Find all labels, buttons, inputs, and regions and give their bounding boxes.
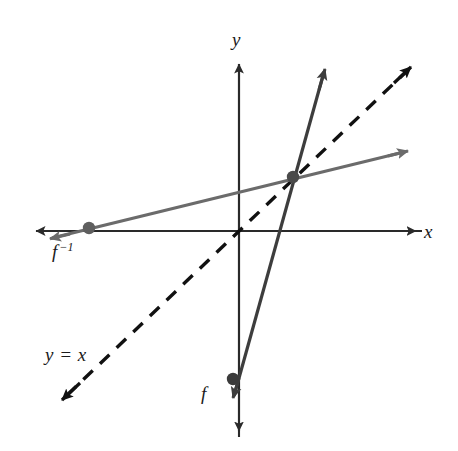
identity-line-arrow-lower-left [62,383,80,400]
f-inverse-label-exponent: −1 [59,240,73,254]
f-inverse-label: f−1 [52,241,73,261]
identity-line-label: y = x [45,345,87,364]
f-inverse-line-group [50,151,408,239]
y-axis-label: y [232,30,240,49]
f-line-group [233,69,325,398]
identity-line-group [62,67,411,400]
f-inverse-arrow-right [388,151,408,156]
identity-line-dashed [64,69,409,398]
identity-line-arrow-upper-right [394,67,411,83]
f-label: f [201,384,206,403]
point-f-y-intercept [227,373,239,385]
point-f-inverse-x-intercept [83,222,95,234]
f-arrow-up [319,69,325,90]
f-line [234,72,324,396]
f-inverse-line [52,152,404,238]
math-figure: y x f−1 y = x f [0,0,458,451]
graph-canvas [0,0,458,451]
point-intersection [287,171,299,183]
f-inverse-label-base: f [52,241,57,262]
x-axis-label: x [424,222,432,241]
